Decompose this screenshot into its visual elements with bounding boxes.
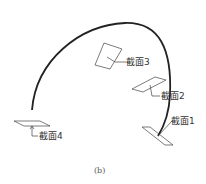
section-3-label: 截面3: [126, 57, 150, 67]
section-1-shape: [142, 121, 173, 145]
section-2-label: 截面2: [161, 91, 185, 101]
section-4-label: 截面4: [39, 131, 63, 141]
figure-caption: (b): [94, 166, 105, 175]
section-3-shape: [95, 43, 126, 69]
section-1-label: 截面1: [171, 116, 195, 126]
